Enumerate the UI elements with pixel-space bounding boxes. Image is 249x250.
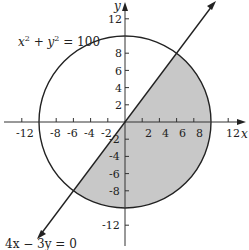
x-tick-label: 4 [162,127,169,140]
y-axis-arrow-icon [122,2,128,11]
x-tick-label: 2 [145,127,152,140]
y-tick-label: 8 [115,47,122,60]
x-tick-label: 12 [226,127,240,140]
diagram-svg: -12 -8 -6 -4 -2 2 4 6 8 12 x y 12 8 6 4 … [0,0,249,250]
y-tick-label: -6 [109,168,120,181]
y-tick-label: 4 [115,82,122,95]
y-tick-label: -12 [102,219,120,232]
y-tick-label: -8 [109,185,120,198]
y-tick-label: -2 [109,133,120,146]
line-equation-label: 4x − 3y = 0 [5,237,77,250]
y-tick-label: 6 [115,65,122,78]
y-tick-label: 12 [108,13,122,26]
line-arrow-up-icon [207,1,216,10]
x-tick-label: -4 [84,127,95,140]
x-axis-arrow-icon [237,119,246,125]
x-tick-label: 8 [196,127,203,140]
y-tick-label: -4 [109,150,120,163]
x-tick-label: -8 [50,127,61,140]
x-tick-label: -12 [16,127,34,140]
circle-equation-label: x2 + y2 = 100 [18,34,100,49]
diagram-canvas: -12 -8 -6 -4 -2 2 4 6 8 12 x y 12 8 6 4 … [0,0,249,250]
x-tick-label: -6 [67,127,78,140]
y-axis-label: y [113,0,121,13]
y-tick-label: 2 [115,99,122,112]
x-axis-label: x [241,127,248,141]
x-tick-label: 6 [179,127,186,140]
